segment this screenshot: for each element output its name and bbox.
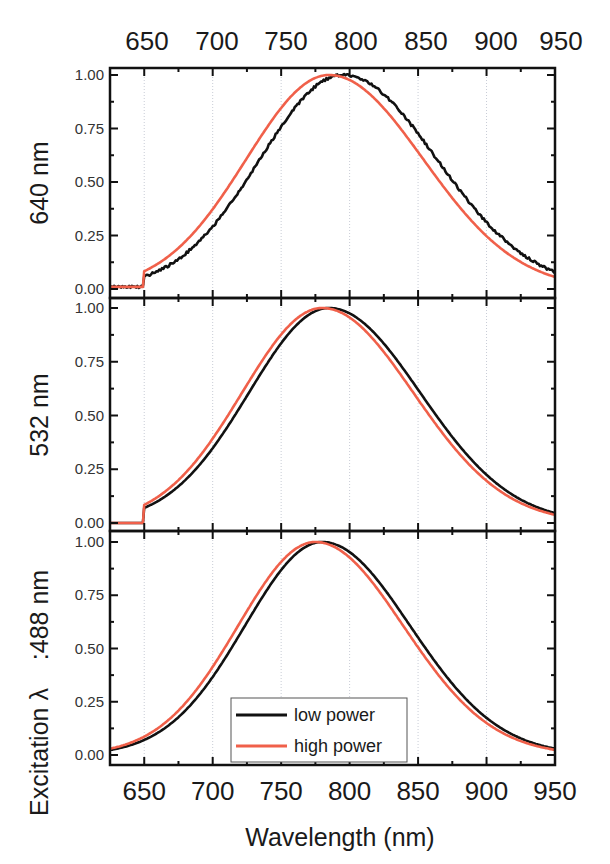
spectra-curves <box>110 74 555 750</box>
y-tick-label: 0.00 <box>75 514 104 531</box>
y-tick-label: 0.25 <box>75 227 104 244</box>
y-tick-label: 0.50 <box>75 640 104 657</box>
emission-spectra-chart: 0.000.250.500.751.000.000.250.500.751.00… <box>0 0 610 864</box>
bottom-x-tick-label: 800 <box>328 776 371 806</box>
y-tick-label: 0.50 <box>75 173 104 190</box>
panel-frame <box>110 68 555 298</box>
bottom-x-tick-label: 700 <box>191 776 234 806</box>
bottom-x-tick-label: 900 <box>465 776 508 806</box>
x-axis-title: Wavelength (nm) <box>245 823 434 851</box>
y-tick-label: 0.00 <box>75 280 104 297</box>
bottom-x-tick-label: 750 <box>259 776 302 806</box>
axis-labels: 0.000.250.500.751.000.000.250.500.751.00… <box>75 66 104 763</box>
panel-label-640nm: 640 nm <box>25 141 53 224</box>
top-x-tick-labels: 650700750800850900950 <box>125 26 582 56</box>
y-tick-label: 0.75 <box>75 586 104 603</box>
y-tick-label: 0.25 <box>75 460 104 477</box>
y-tick-label: 1.00 <box>75 533 104 550</box>
spectrum-high-power-line <box>110 308 555 523</box>
top-x-tick-label: 900 <box>474 26 517 56</box>
y-tick-label: 0.25 <box>75 693 104 710</box>
panel-label-488nm: :488 nm <box>25 570 53 660</box>
panel-frame <box>110 298 555 531</box>
y-tick-label: 1.00 <box>75 66 104 83</box>
bottom-x-tick-label: 650 <box>123 776 166 806</box>
top-x-tick-label: 750 <box>264 26 307 56</box>
y-tick-label: 1.00 <box>75 299 104 316</box>
spectrum-high-power-line <box>110 75 555 287</box>
y-tick-label: 0.00 <box>75 746 104 763</box>
bottom-x-tick-label: 850 <box>396 776 439 806</box>
legend-label-high-power: high power <box>294 736 382 756</box>
y-tick-label: 0.75 <box>75 353 104 370</box>
panel-frames <box>110 68 555 765</box>
top-x-tick-label: 850 <box>404 26 447 56</box>
top-x-tick-label: 700 <box>195 26 238 56</box>
gridlines <box>144 68 555 765</box>
y-tick-label: 0.75 <box>75 120 104 137</box>
legend-label-low-power: low power <box>294 705 375 725</box>
y-tick-label: 0.50 <box>75 407 104 424</box>
shared-ylabel-excitation: Excitation λ <box>25 688 53 816</box>
top-x-tick-label: 950 <box>539 26 582 56</box>
top-x-tick-label: 650 <box>125 26 168 56</box>
legend: low power high power <box>231 698 407 762</box>
spectrum-low-power-line <box>110 308 555 523</box>
bottom-x-tick-labels: 650700750800850900950 <box>123 776 577 806</box>
spectrum-low-power-line <box>110 74 555 288</box>
axis-ticks <box>110 68 555 765</box>
top-x-tick-label: 800 <box>334 26 377 56</box>
panel-label-532nm: 532 nm <box>25 373 53 456</box>
bottom-x-tick-label: 950 <box>533 776 576 806</box>
